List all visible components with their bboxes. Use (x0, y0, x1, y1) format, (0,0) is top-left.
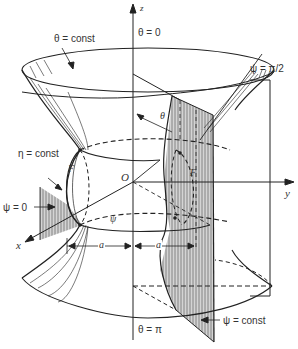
focus-left-point-bottom (78, 223, 82, 227)
y-axis-label: y (285, 188, 290, 199)
psi-angle-label: ψ (110, 214, 116, 224)
theta-zero-label: θ = 0 (138, 28, 161, 38)
psi-const-label: ψ = const (223, 316, 265, 326)
focus-right-label: F (190, 168, 196, 178)
focus-left-label: F (68, 164, 74, 174)
psi-zero-label: ψ = 0 (3, 203, 27, 213)
dimension-a-left-label: a (98, 240, 105, 250)
psi-const-plane (160, 96, 214, 342)
x-axis-label: x (16, 240, 21, 251)
focus-right-point (178, 151, 182, 155)
origin-label: O (121, 172, 129, 183)
theta-angle-label: θ (160, 111, 165, 121)
theta-pi-label: θ = π (138, 325, 162, 335)
theta-const-label: θ = const (54, 34, 95, 44)
coordinate-diagram (0, 0, 298, 349)
dimension-a-right-label: a (155, 240, 162, 250)
eta-const-label: η = const (18, 149, 59, 159)
z-axis-label: z (140, 4, 144, 13)
focus-left-point (78, 148, 82, 152)
hyperboloid-surface (22, 48, 274, 318)
psi-half-pi-label: ψ = π/2 (250, 64, 284, 74)
focus-right-point-bottom (173, 216, 177, 220)
